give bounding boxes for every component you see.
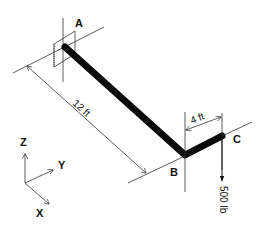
point-a-label: A [75,17,83,29]
load-arrow: 500 lb [218,138,229,214]
dimension-4ft: 4 ft [186,110,221,130]
point-b-label: B [170,166,178,178]
axis-z-label: Z [20,136,27,148]
coordinate-axes: Z Y X [20,136,66,219]
point-c-label: C [233,133,241,145]
load-label: 500 lb [218,186,229,214]
dimension-12ft: 12 ft [27,66,146,173]
axis-y-label: Y [58,159,66,171]
axis-x-label: X [36,207,44,219]
bent-rod-diagram: 12 ft 4 ft A B C 500 lb Z Y X [0,0,261,234]
rod-abc [65,47,222,155]
